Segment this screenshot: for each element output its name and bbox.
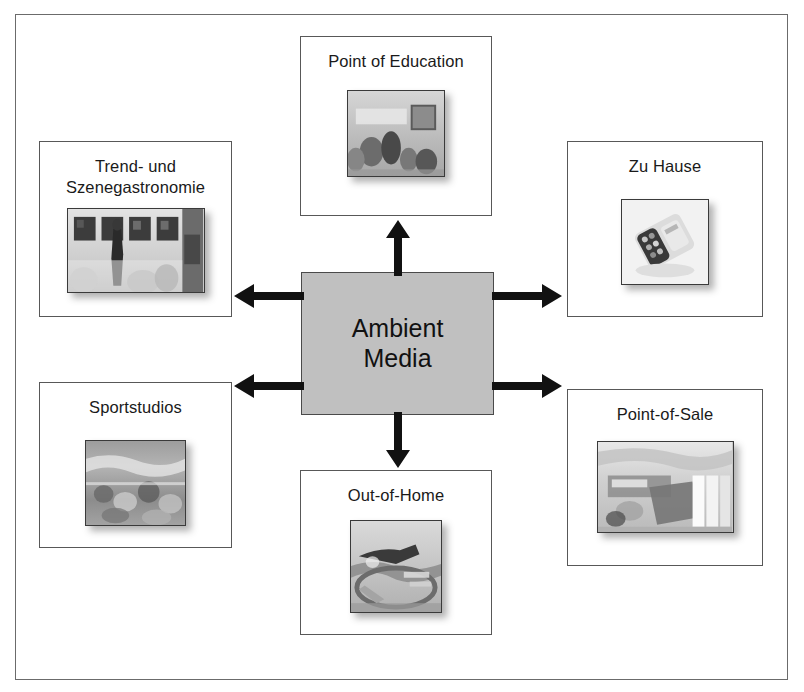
- thumb-sportstudios: [85, 440, 186, 526]
- central-node-ambient-media[interactable]: Ambient Media: [301, 272, 494, 415]
- node-sportstudios[interactable]: Sportstudios: [39, 382, 232, 548]
- node-label-point-of-sale: Point-of-Sale: [617, 390, 714, 425]
- node-label-sportstudios: Sportstudios: [89, 383, 182, 418]
- node-label-zu-hause: Zu Hause: [629, 142, 701, 177]
- node-point-of-sale[interactable]: Point-of-Sale: [567, 389, 763, 566]
- thumb-point-of-education: [347, 90, 445, 177]
- thumb-zu-hause: [621, 199, 709, 285]
- node-zu-hause[interactable]: Zu Hause: [567, 141, 763, 317]
- node-trend-und-szenegastronomie[interactable]: Trend- und Szenegastronomie: [39, 141, 232, 317]
- node-label-out-of-home: Out-of-Home: [348, 471, 444, 506]
- node-point-of-education[interactable]: Point of Education: [300, 36, 492, 216]
- diagram-canvas: Point of Education: [0, 0, 804, 692]
- node-label-point-of-education: Point of Education: [328, 37, 464, 72]
- node-out-of-home[interactable]: Out-of-Home: [300, 470, 492, 635]
- thumb-out-of-home: [350, 520, 442, 613]
- node-label-trend-und-szenegastronomie: Trend- und Szenegastronomie: [66, 142, 205, 198]
- central-node-label: Ambient Media: [352, 314, 444, 373]
- thumb-point-of-sale: [597, 441, 734, 533]
- thumb-trend-und-szenegastronomie: [67, 208, 205, 293]
